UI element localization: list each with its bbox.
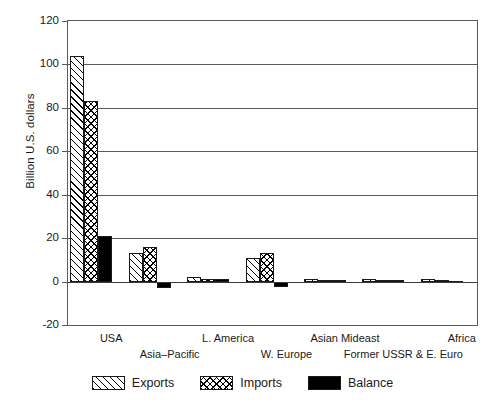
y-tick-label: 20 [46,232,59,244]
y-tick-label: 120 [40,15,59,27]
category-label-0: USA [100,332,123,344]
legend-item-balance: Balance [308,376,393,390]
legend-item-imports: Imports [200,376,282,390]
bar-exports-0 [70,56,84,282]
bar-imports-0 [84,101,98,281]
solid-black-swatch [308,376,341,390]
bar-balance-0 [98,236,112,282]
zero-axis-line [68,282,477,283]
legend-label-imports: Imports [240,376,282,390]
gridline [68,325,477,326]
y-tick-label: 60 [46,146,59,158]
y-tick-label: 0 [53,276,59,288]
bars-layer [68,21,477,325]
y-tick-label: 40 [46,189,59,201]
bar-exports-3 [246,258,260,282]
bar-chart: Billion U.S. dollars 120100806040200-20 … [0,0,485,412]
category-axis-labels: USAAsia–PacificL. AmericaW. EuropeAsian … [67,330,478,366]
category-label-6: Africa [448,332,476,344]
legend-label-balance: Balance [348,376,393,390]
bar-imports-1 [143,247,157,282]
category-label-1: Asia–Pacific [140,348,200,360]
y-axis-title: Billion U.S. dollars [24,41,36,241]
category-label-5: Former USSR & E. Euro [344,348,463,360]
y-tick-label: 100 [40,59,59,71]
plot-area: 120100806040200-20 [67,20,478,326]
category-label-4: Asian Mideast [310,332,379,344]
bar-imports-3 [260,253,274,281]
category-label-3: W. Europe [261,348,312,360]
legend-label-exports: Exports [132,376,174,390]
chart-legend: ExportsImportsBalance [0,376,485,390]
y-tick-mark [62,325,68,326]
y-tick-label: 80 [46,102,59,114]
category-label-2: L. America [202,332,254,344]
diagonal-hatch-swatch [92,376,125,390]
legend-item-exports: Exports [92,376,174,390]
y-tick-label: -20 [42,319,59,331]
bar-exports-1 [129,253,143,281]
cross-hatch-swatch [200,376,233,390]
